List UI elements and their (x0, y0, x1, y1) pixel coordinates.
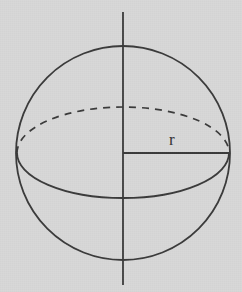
sphere-diagram-svg (0, 0, 242, 292)
sphere-diagram-figure: r (0, 0, 242, 292)
radius-label: r (169, 131, 175, 148)
